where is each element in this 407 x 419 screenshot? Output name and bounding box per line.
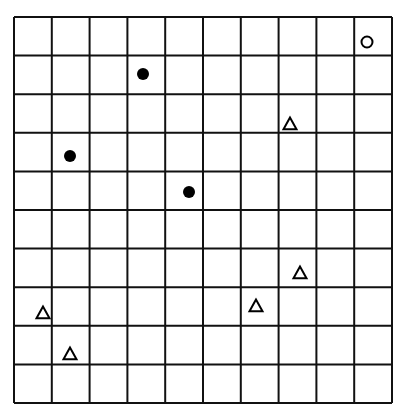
- markers: [37, 37, 373, 360]
- grid-lines: [14, 17, 392, 403]
- triangle-icon: [294, 267, 307, 279]
- triangle-icon: [64, 348, 77, 360]
- filled-dot-icon: [64, 150, 76, 162]
- grid-board: [0, 0, 407, 419]
- open-circle-icon: [362, 37, 373, 48]
- filled-dot-icon: [183, 186, 195, 198]
- triangle-icon: [250, 300, 263, 312]
- triangle-icon: [37, 307, 50, 319]
- filled-dot-icon: [137, 68, 149, 80]
- triangle-icon: [284, 118, 297, 130]
